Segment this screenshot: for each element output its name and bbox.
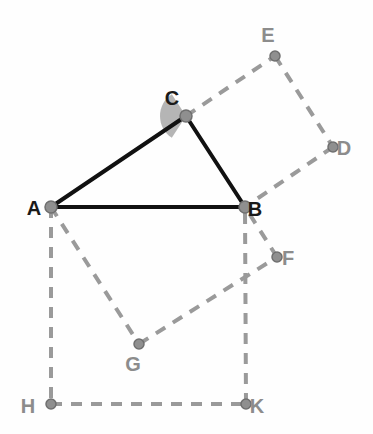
- segment-AG: [51, 207, 139, 344]
- segment-KB: [245, 207, 246, 404]
- vertex-label-c: C: [165, 87, 179, 109]
- vertex-label-f: F: [282, 247, 294, 269]
- vertex-labels-layer: ABCDEFGHK: [21, 24, 351, 417]
- vertex-dot-h[interactable]: [46, 399, 56, 409]
- vertex-label-d: D: [337, 137, 351, 159]
- vertex-dot-e[interactable]: [270, 51, 280, 61]
- geometry-figure: ABCDEFGHK: [0, 0, 373, 434]
- segment-CE: [186, 56, 275, 116]
- vertex-label-g: G: [125, 353, 141, 375]
- vertex-label-k: K: [250, 395, 265, 417]
- vertex-label-h: H: [21, 395, 35, 417]
- segment-CB: [186, 116, 245, 207]
- vertex-dot-a[interactable]: [45, 201, 57, 213]
- geometry-canvas: ABCDEFGHK: [0, 0, 373, 434]
- vertex-dot-g[interactable]: [134, 339, 144, 349]
- segment-AC: [51, 116, 186, 207]
- vertex-dot-c[interactable]: [180, 110, 192, 122]
- vertex-dot-f[interactable]: [272, 252, 282, 262]
- vertex-label-e: E: [261, 24, 274, 46]
- dashed-segments-layer: [51, 56, 333, 404]
- segment-GF: [139, 257, 277, 344]
- vertex-label-a: A: [27, 197, 41, 219]
- solid-segments-layer: [51, 116, 245, 207]
- segment-ED: [275, 56, 333, 147]
- vertex-dots-layer: [45, 51, 338, 409]
- vertex-label-b: B: [248, 198, 262, 220]
